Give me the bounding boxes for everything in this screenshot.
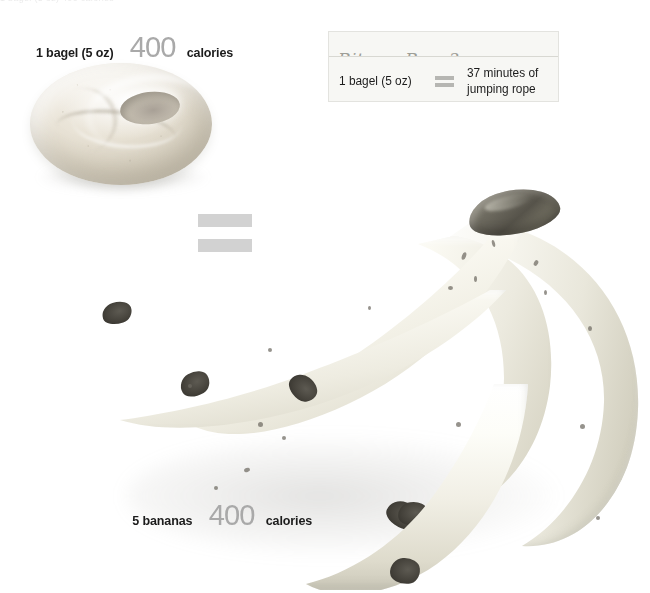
banana-calorie-number: 400 [208,500,254,530]
bite-or-burn-box: Bite or Burn? The Choice Is Yours 1 bage… [328,31,559,102]
banana-speck [268,348,272,352]
banana-speck [596,516,600,520]
bite-or-burn-left-value: 1 bagel (5 oz) [339,74,430,88]
banana-4-tip [99,298,134,328]
banana-speck [282,436,286,440]
cut-off-header-remnant: 1 bagel (5 oz) 400 calories [0,0,650,8]
bite-or-burn-right-line1: 37 minutes of [467,66,538,80]
bite-or-burn-header: Bite or Burn? The Choice Is Yours [329,32,558,57]
banana-speck [588,326,592,331]
bite-or-burn-title: Bite or Burn? [338,49,459,57]
banana-speck [368,306,371,310]
banana-speck [474,276,477,282]
banana-speck [188,384,192,388]
banana-speck [544,290,547,295]
banana-photo [96,186,650,593]
banana-speck [448,286,453,290]
banana-3-tip [176,366,214,402]
equals-sign-small [435,74,455,88]
banana-speck [258,422,263,427]
bagel-photo [24,58,220,194]
banana-speck [580,424,585,429]
banana-speck [214,486,218,490]
equals-small-bar-top [435,76,454,80]
banana-portion-text: 5 bananas [132,513,192,528]
bite-or-burn-right-line2: jumping rope [467,82,536,96]
cut-off-header-text: 1 bagel (5 oz) 400 calories [0,0,114,3]
bite-or-burn-right-value: 37 minutes of jumping rope [467,65,538,97]
bite-or-burn-body: 1 bagel (5 oz) 37 minutes of jumping rop… [329,58,558,103]
equals-small-bar-bottom [435,83,454,87]
banana-speck [456,422,461,427]
banana-calorie-unit: calories [265,513,311,528]
banana-calorie-label: 5 bananas 400 calories [130,500,314,530]
